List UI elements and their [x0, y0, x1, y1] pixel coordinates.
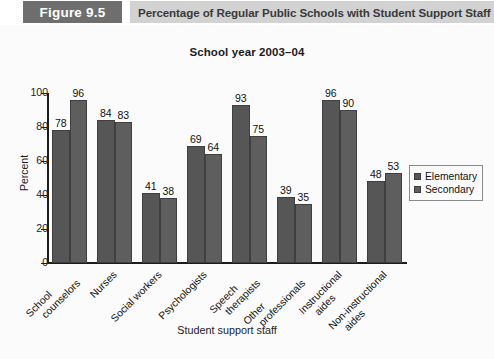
y-axis-title: Percent	[18, 133, 30, 213]
legend-item-elementary: Elementary	[414, 170, 477, 183]
bar-value-label: 64	[201, 141, 227, 153]
y-tick-label: 20	[14, 222, 48, 234]
bar-secondary-6	[340, 110, 358, 263]
legend-item-secondary: Secondary	[414, 183, 477, 196]
category-label-0: Schoolcounselors	[23, 269, 82, 328]
source-note	[6, 349, 186, 357]
category-label-line: Nurses	[87, 269, 118, 300]
legend-swatch-icon	[414, 186, 421, 193]
bar-secondary-3	[205, 154, 223, 263]
bar-value-label: 38	[156, 185, 182, 197]
bar-secondary-7	[385, 173, 403, 263]
bar-elementary-7	[367, 181, 385, 263]
bar-elementary-0	[52, 130, 70, 263]
bar-value-label: 83	[111, 109, 137, 121]
bar-secondary-4	[250, 136, 268, 264]
bar-elementary-6	[322, 100, 340, 263]
bar-secondary-0	[70, 100, 88, 263]
bar-value-label: 35	[291, 191, 317, 203]
legend-label: Elementary	[425, 171, 477, 182]
bars-layer: 78968483413869649375393596904853	[47, 93, 407, 263]
plot-area: 020406080100 Percent 7896848341386964937…	[0, 25, 494, 359]
y-tick-label: 80	[14, 120, 48, 132]
bar-elementary-5	[277, 197, 295, 263]
x-axis-title: Student support staff	[47, 324, 407, 336]
bar-elementary-1	[97, 120, 115, 263]
legend-label: Secondary	[425, 184, 474, 195]
chart-figure: School year 2003–04 020406080100 Percent…	[0, 25, 494, 359]
y-tick-label: 0	[14, 256, 48, 268]
bar-value-label: 93	[228, 92, 254, 104]
bar-value-label: 53	[381, 160, 407, 172]
bar-elementary-2	[142, 193, 160, 263]
y-tick-label: 100	[14, 86, 48, 98]
bar-secondary-2	[160, 198, 178, 263]
figure-title-band: Percentage of Regular Public Schools wit…	[130, 1, 494, 23]
legend-swatch-icon	[414, 173, 421, 180]
bar-elementary-3	[187, 146, 205, 263]
figure-number-badge: Figure 9.5	[23, 1, 122, 23]
chart-legend: ElementarySecondary	[409, 165, 483, 201]
x-axis-category-labels: SchoolcounselorsNursesSocial workersPsyc…	[47, 265, 447, 359]
bar-value-label: 96	[66, 87, 92, 99]
bar-secondary-5	[295, 204, 313, 264]
bar-value-label: 75	[246, 123, 272, 135]
bar-secondary-1	[115, 122, 133, 263]
figure-header: Figure 9.5 Percentage of Regular Public …	[0, 0, 494, 25]
category-label-1: Nurses	[87, 269, 118, 300]
figure-title: Percentage of Regular Public Schools wit…	[138, 1, 491, 23]
bar-value-label: 90	[336, 97, 362, 109]
